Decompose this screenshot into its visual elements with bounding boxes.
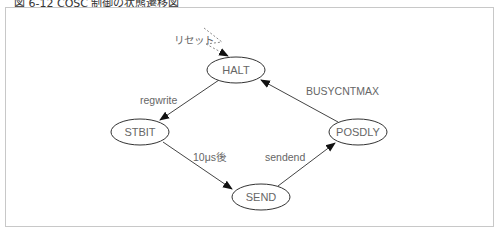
edge-halt-to-stbit: regwrite [140,80,219,120]
edge-label-sendend: sendend [265,151,305,163]
state-node-posdly: POSDLY [329,119,387,145]
edge-label-regwrite: regwrite [140,94,178,106]
state-label-send: SEND [246,191,277,203]
edge-reset-to-halt: リセット [174,28,228,56]
edge-label-busycntmax: BUSYCNTMAX [306,85,379,97]
edge-label-10us: 10μs後 [193,151,227,163]
state-node-halt: HALT [207,57,265,83]
state-node-send: SEND [232,184,290,210]
state-label-halt: HALT [222,64,250,76]
edge-posdly-to-halt: BUSYCNTMAX [261,80,379,122]
state-label-posdly: POSDLY [336,126,380,138]
edge-stbit-to-send: 10μs後 [163,142,232,189]
state-diagram: リセット regwrite 10μs後 sendend BUSYCNTMAX H… [0,0,501,231]
state-label-stbit: STBIT [124,126,155,138]
edge-send-to-posdly: sendend [265,143,335,186]
edge-label-reset: リセット [174,34,214,46]
state-node-stbit: STBIT [111,119,169,145]
